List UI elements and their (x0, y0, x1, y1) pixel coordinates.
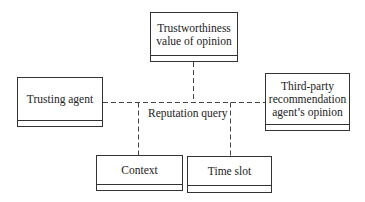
label-line: Context (121, 164, 157, 177)
box-divider (188, 185, 271, 186)
box-divider (97, 184, 182, 185)
box-time-slot: Time slot (187, 156, 272, 193)
label-line: Trustworthiness (156, 22, 231, 35)
label-line: value of opinion (156, 35, 231, 48)
box-trustworthiness-value: Trustworthiness value of opinion (150, 12, 238, 62)
box-label: Context (97, 156, 182, 185)
box-third-party-opinion: Third-party recommendation agent’s opini… (265, 73, 350, 131)
box-context: Context (96, 155, 183, 191)
box-label: Trustworthiness value of opinion (151, 13, 237, 56)
label-line: recommendation (269, 93, 346, 106)
label-line: Trusting agent (27, 93, 93, 106)
label-line: Time slot (208, 165, 251, 178)
box-label: Trusting agent (18, 78, 102, 121)
label-line: agent’s opinion (269, 106, 346, 119)
box-divider (266, 124, 349, 125)
label-line: Third-party (269, 80, 346, 93)
box-label: Third-party recommendation agent’s opini… (266, 74, 349, 125)
box-label: Time slot (188, 157, 271, 186)
reputation-query-label: Reputation query (148, 107, 228, 119)
box-divider (151, 55, 237, 56)
box-divider (18, 120, 102, 121)
box-trusting-agent: Trusting agent (17, 77, 103, 127)
